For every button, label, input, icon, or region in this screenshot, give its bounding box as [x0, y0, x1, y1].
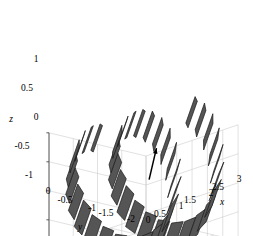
x-tick-label: 2.5	[212, 182, 224, 192]
z-axis-label: z	[8, 114, 13, 124]
y-tick-label: 0	[46, 186, 51, 196]
z-tick-label: 0	[34, 112, 39, 122]
y-tick-label: -2	[127, 214, 135, 224]
x-tick-label: 1.5	[184, 195, 196, 205]
y-axis-label: y	[77, 222, 83, 232]
z-tick-label: 1	[34, 54, 39, 64]
x-tick-label: 0.5	[154, 209, 166, 219]
x-tick-label: 0	[146, 215, 151, 225]
y-tick-label: -1.5	[98, 208, 113, 218]
z-tick-label: 0.5	[21, 83, 33, 93]
z-tick-label: -0.5	[14, 141, 29, 151]
z-tick-label: -1	[25, 170, 33, 180]
y-tick-label: -1	[88, 203, 96, 213]
figure-canvas: 10.50-0.5-10-0.5-1-1.5-200.511.522.53zyx	[0, 0, 253, 236]
x-tick-label: 1	[179, 201, 184, 211]
axis-label-layer: 10.50-0.5-10-0.5-1-1.5-200.511.522.53zyx	[0, 0, 253, 236]
x-tick-label: 3	[237, 174, 242, 184]
y-tick-label: -0.5	[57, 195, 72, 205]
x-axis-label: x	[219, 197, 225, 207]
